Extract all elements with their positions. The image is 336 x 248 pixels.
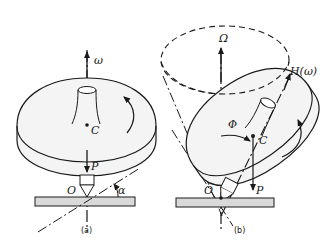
caption-a: (a) — [81, 226, 92, 235]
origin-point-b — [219, 196, 223, 200]
base-plate-a — [35, 197, 135, 206]
label-center-b: C — [259, 134, 268, 147]
label-angular-momentum: H(ω) — [289, 65, 317, 78]
label-origin-b: O — [204, 184, 213, 197]
label-center-a: C — [91, 124, 100, 137]
pivot-tip-a — [80, 175, 94, 197]
caption-b: (b) — [234, 226, 245, 235]
panel-a: ω C P O α (a) — [17, 50, 156, 235]
base-plate-b — [176, 198, 274, 207]
label-origin-a: O — [67, 184, 76, 197]
label-force-b: P — [255, 184, 264, 197]
label-force-a: P — [90, 160, 99, 173]
center-point-a — [85, 123, 89, 127]
panel-b: Ω H(ω) Φ C P O (b) — [161, 26, 335, 235]
label-precession: Ω — [218, 32, 228, 45]
label-omega: ω — [94, 54, 103, 67]
gyroscope-diagram: ω C P O α (a) — [0, 0, 336, 248]
label-tilt: Φ — [228, 118, 237, 131]
label-alpha: α — [118, 184, 126, 197]
